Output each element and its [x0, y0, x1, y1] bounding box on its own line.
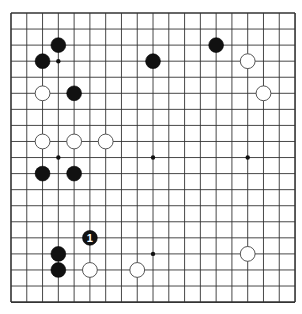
star-point: [151, 252, 155, 256]
black-stone: [35, 54, 50, 69]
black-stone: [209, 38, 224, 53]
black-stone: [67, 86, 82, 101]
white-stone: [256, 86, 271, 101]
black-stone: [146, 54, 161, 69]
black-stone: 1: [83, 230, 98, 245]
move-number-label: 1: [87, 232, 93, 244]
go-board[interactable]: 1: [0, 0, 302, 314]
white-stone: [67, 134, 82, 149]
black-stone: [51, 247, 66, 262]
white-stone: [35, 134, 50, 149]
star-point: [56, 59, 60, 63]
black-stone: [35, 166, 50, 181]
white-stone: [240, 54, 255, 69]
white-stone: [83, 263, 98, 278]
black-stone: [51, 38, 66, 53]
black-stone: [51, 263, 66, 278]
white-stone: [240, 247, 255, 262]
white-stone: [35, 86, 50, 101]
star-point: [151, 155, 155, 159]
star-point: [246, 155, 250, 159]
white-stone: [98, 134, 113, 149]
star-point: [56, 155, 60, 159]
black-stone: [67, 166, 82, 181]
white-stone: [130, 263, 145, 278]
